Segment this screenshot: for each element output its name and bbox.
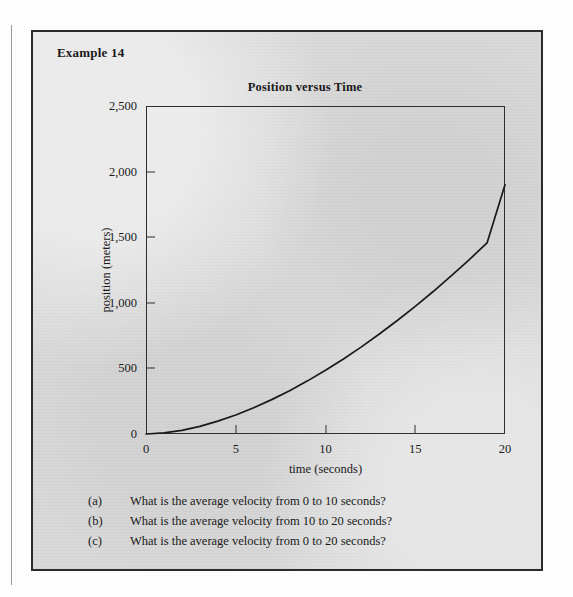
position-curve	[146, 106, 505, 434]
x-tick-label: 5	[233, 442, 239, 457]
question-item: (b)What is the average velocity from 10 …	[88, 514, 517, 529]
x-tick-label: 20	[499, 442, 512, 457]
question-item: (c)What is the average velocity from 0 t…	[88, 534, 517, 549]
x-tick-label: 0	[143, 442, 149, 457]
chart-title: Position versus Time	[33, 80, 541, 95]
question-text: What is the average velocity from 0 to 1…	[130, 494, 386, 509]
figure-panel: Example 14 Position versus Time 05001,00…	[31, 30, 543, 571]
plot-area: 05001,0001,5002,0002,500 05101520 time (…	[146, 106, 505, 434]
question-text: What is the average velocity from 0 to 2…	[130, 534, 386, 549]
figure-page: Example 14 Position versus Time 05001,00…	[0, 0, 573, 597]
y-tick-label: 2,000	[109, 164, 137, 179]
y-tick-label: 0	[131, 427, 137, 442]
page-gutter-rule	[11, 25, 12, 585]
y-tick-mark	[146, 302, 155, 303]
y-tick-label: 2,500	[109, 99, 137, 114]
x-tick-label: 10	[319, 442, 332, 457]
x-tick-mark	[415, 425, 416, 434]
question-marker: (c)	[88, 534, 130, 549]
y-tick-mark	[146, 171, 155, 172]
x-tick-mark	[325, 425, 326, 434]
question-item: (a)What is the average velocity from 0 t…	[88, 494, 517, 509]
x-axis-title: time (seconds)	[289, 462, 362, 477]
question-list: (a)What is the average velocity from 0 t…	[88, 494, 517, 554]
example-label: Example 14	[57, 45, 124, 61]
y-tick-label: 500	[118, 361, 137, 376]
question-text: What is the average velocity from 10 to …	[130, 514, 392, 529]
x-tick-label: 15	[409, 442, 422, 457]
question-marker: (a)	[88, 494, 130, 509]
curve-polyline	[146, 185, 505, 434]
question-marker: (b)	[88, 514, 130, 529]
y-tick-mark	[146, 368, 155, 369]
x-tick-mark	[235, 425, 236, 434]
y-tick-mark	[146, 237, 155, 238]
y-axis-title: position (meters)	[99, 227, 114, 312]
